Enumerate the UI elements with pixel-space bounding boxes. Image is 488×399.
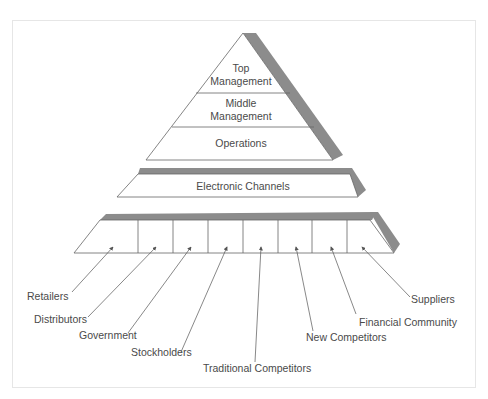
level-operations: Operations — [215, 137, 266, 149]
arrow-stockholders — [181, 247, 227, 352]
label-government: Government — [79, 329, 137, 341]
arrow-traditional-competitors — [255, 247, 261, 362]
arrow-retailers — [72, 247, 113, 292]
pyramid: Top Management Middle Management Operati… — [146, 33, 343, 160]
arrow-government — [128, 247, 191, 333]
label-suppliers: Suppliers — [411, 293, 455, 305]
arrow-financial-community — [331, 247, 356, 314]
level-middle-line2: Management — [210, 110, 271, 122]
arrow-distributors — [88, 247, 156, 317]
label-financial-community: Financial Community — [359, 316, 458, 328]
level-top-line1: Top — [233, 62, 250, 74]
label-stockholders: Stockholders — [131, 346, 192, 358]
electronic-channels-label: Electronic Channels — [196, 180, 289, 192]
arrow-suppliers — [362, 247, 410, 297]
electronic-channels-shelf: Electronic Channels — [117, 168, 366, 197]
stakeholder-shelf — [74, 212, 400, 253]
label-retailers: Retailers — [27, 290, 68, 302]
label-traditional-competitors: Traditional Competitors — [203, 362, 311, 374]
arrow-new-competitors — [296, 247, 313, 331]
stakeholder-arrows — [72, 247, 410, 362]
pyramid-diagram: Top Management Middle Management Operati… — [0, 0, 488, 399]
level-middle-line1: Middle — [226, 97, 257, 109]
level-top-line2: Management — [210, 75, 271, 87]
label-distributors: Distributors — [34, 313, 87, 325]
label-new-competitors: New Competitors — [306, 331, 387, 343]
